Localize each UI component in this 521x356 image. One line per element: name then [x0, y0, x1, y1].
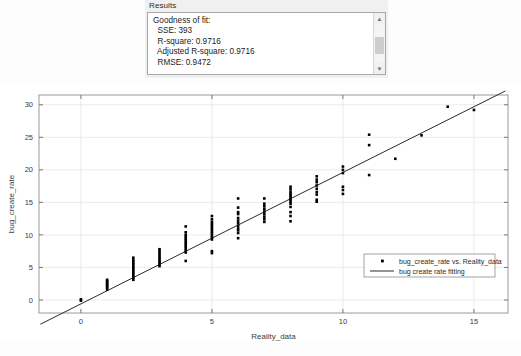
svg-text:10: 10 [25, 231, 33, 240]
svg-text:10: 10 [339, 317, 347, 326]
svg-text:30: 30 [25, 100, 33, 109]
svg-text:0: 0 [29, 296, 33, 305]
fit-plot-figure: 051015051015202530 Reality_databug_creat… [0, 82, 521, 342]
results-scrollbar[interactable]: ▲ ▼ [373, 13, 385, 74]
x-axis-title: Reality_data [251, 332, 296, 341]
scroll-down-arrow-icon[interactable]: ▼ [374, 63, 385, 74]
svg-text:15: 15 [470, 317, 478, 326]
svg-text:0: 0 [79, 317, 83, 326]
legend-entry-label: bug_create_rate vs. Reality_data [399, 258, 502, 266]
goodness-of-fit-text: Goodness of fit: SSE: 393 R-square: 0.97… [153, 16, 369, 68]
svg-text:5: 5 [210, 317, 214, 326]
scroll-up-arrow-icon[interactable]: ▲ [374, 13, 385, 24]
y-axis-title: bug_create_rate [7, 174, 16, 233]
plot-axis-titles: Reality_databug_create_rate [7, 174, 296, 341]
results-panel: Results Goodness of fit: SSE: 393 R-squa… [145, 0, 388, 78]
results-textarea[interactable]: Goodness of fit: SSE: 393 R-square: 0.97… [147, 12, 386, 75]
svg-text:15: 15 [25, 198, 33, 207]
legend-entry-label: bug create rate fitting [399, 268, 465, 276]
plot-axes [39, 95, 508, 313]
scrollbar-thumb[interactable] [375, 37, 384, 54]
results-panel-title: Results [149, 1, 176, 10]
plot-gridlines [39, 95, 508, 313]
plot-tick-labels: 051015051015202530 [25, 100, 478, 326]
plot-legend[interactable]: bug_create_rate vs. Reality_databug crea… [364, 254, 502, 277]
fit-line-series [40, 91, 505, 324]
scatter-plot: 051015051015202530 Reality_databug_creat… [0, 82, 521, 342]
svg-text:20: 20 [25, 165, 33, 174]
svg-text:5: 5 [29, 263, 33, 272]
svg-text:25: 25 [25, 133, 33, 142]
